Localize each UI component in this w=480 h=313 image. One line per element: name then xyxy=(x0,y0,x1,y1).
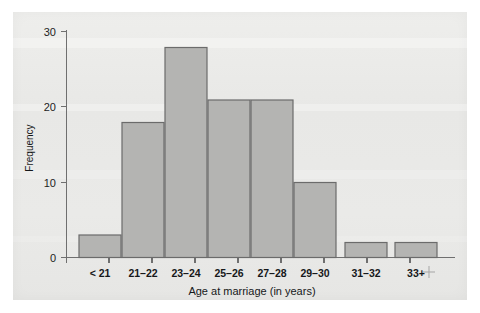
y-tick-label-0: 0 xyxy=(50,252,56,264)
histogram-svg: 30 20 10 0 Frequency xyxy=(0,0,480,313)
bar-2 xyxy=(165,48,207,258)
x-tick-label-2: 23–24 xyxy=(171,267,200,279)
x-tick-label-7: 33+ xyxy=(407,267,425,279)
bar-4 xyxy=(251,100,293,258)
x-tick-label-1: 21–22 xyxy=(128,267,157,279)
bar-7 xyxy=(395,243,437,258)
y-axis-title: Frequency xyxy=(24,124,35,171)
y-tick-label-10: 10 xyxy=(44,177,56,189)
bar-5 xyxy=(294,183,336,258)
x-axis-title: Age at marriage (in years) xyxy=(188,285,315,297)
x-axis xyxy=(67,258,456,264)
bar-6 xyxy=(345,243,387,258)
x-tick-label-0: < 21 xyxy=(90,267,111,279)
x-tick-label-5: 29–30 xyxy=(300,267,329,279)
bar-1 xyxy=(122,123,164,258)
bar-series xyxy=(79,48,437,258)
x-tick-labels: < 21 21–22 23–24 25–26 27–28 29–30 31–32… xyxy=(90,267,425,279)
y-tick-label-30: 30 xyxy=(44,26,56,38)
x-tick-label-3: 25–26 xyxy=(214,267,243,279)
figure-container: 30 20 10 0 Frequency xyxy=(0,0,480,313)
x-tick-label-4: 27–28 xyxy=(257,267,286,279)
bar-0 xyxy=(79,235,121,258)
x-tick-label-6: 31–32 xyxy=(351,267,380,279)
bar-3 xyxy=(208,100,250,258)
y-tick-label-20: 20 xyxy=(44,101,56,113)
y-axis: 30 20 10 0 Frequency xyxy=(24,26,67,264)
